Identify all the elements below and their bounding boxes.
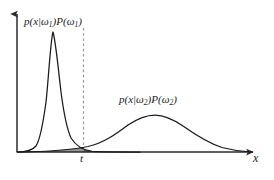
curve-class1 (17, 32, 140, 152)
curve2-label-omega-a: ω (136, 93, 144, 105)
curve1-label-prefix: p(x| (24, 15, 41, 27)
curve1-label-mid: )P( (53, 15, 67, 27)
curve-class2-label: p(x|ω2)P(ω2) (119, 94, 177, 106)
curve2-label-prefix: p(x| (119, 93, 136, 105)
curve1-label-suffix: ) (78, 15, 82, 27)
curve1-label-omega-a: ω (41, 15, 49, 27)
curve2-label-mid: )P( (148, 93, 162, 105)
threshold-tick-label: t (80, 153, 83, 164)
curve-class1-label: p(x|ω1)P(ω1) (24, 16, 82, 28)
curve2-label-suffix: ) (173, 93, 177, 105)
figure-root: p(x|ω1)P(ω1) p(x|ω2)P(ω2) t x (0, 0, 274, 180)
curve-class2 (20, 115, 252, 152)
x-axis-label: x (253, 152, 258, 164)
